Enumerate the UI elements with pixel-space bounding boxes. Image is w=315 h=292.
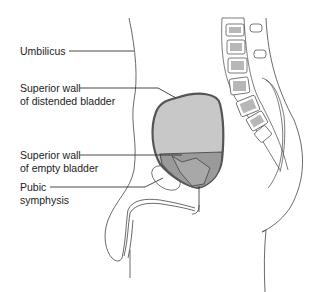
bladder-diagram: Umbilicus Superior wall of distended bla… [0,0,315,292]
urethra-outline [124,203,195,256]
urethra-curve [192,205,199,214]
anatomy-illustration [0,0,315,292]
label-umbilicus: Umbilicus [20,45,66,58]
label-superior-wall-empty: Superior wall of empty bladder [20,149,98,174]
anterior-body-outline [105,18,136,261]
posterior-body-outline [262,18,303,292]
label-superior-wall-distended: Superior wall of distended bladder [20,82,115,107]
label-pubic-symphysis: Pubic symphysis [20,181,69,206]
